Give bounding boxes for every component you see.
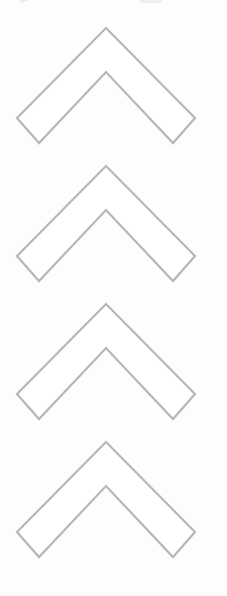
top-left-fragment [20,0,32,3]
chevron-stack [15,26,197,559]
page [0,0,227,596]
chevron-up-icon [15,26,197,145]
chevron-up-1[interactable] [15,26,197,145]
chevron-up-3[interactable] [15,302,197,421]
chevron-up-icon [15,302,197,421]
chevron-up-4[interactable] [15,440,197,559]
chevron-up-icon [15,440,197,559]
chevron-up-icon [15,164,197,283]
top-right-fragment [140,0,162,3]
chevron-up-2[interactable] [15,164,197,283]
